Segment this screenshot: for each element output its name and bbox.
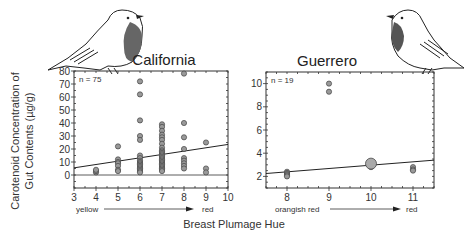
x-tick-label: 7 — [159, 192, 165, 203]
data-point — [203, 170, 208, 175]
y-axis-label: Carotenoid Concentration of Gut Contents… — [9, 71, 35, 210]
y-tick-label: 30 — [59, 131, 71, 142]
data-point — [137, 137, 142, 142]
y-tick-label: 8 — [256, 101, 262, 112]
scale-label-right: red — [202, 205, 214, 214]
scale-label-right: red — [406, 205, 418, 214]
y-tick-label: 70 — [59, 79, 71, 90]
y-tick-label: 6 — [256, 125, 262, 136]
data-point — [203, 140, 208, 145]
x-tick-label: 10 — [365, 192, 377, 203]
x-tick-label: 5 — [115, 192, 121, 203]
y-tick-label: 40 — [59, 118, 71, 129]
data-point — [159, 169, 164, 174]
bird-guerrero-icon — [386, 10, 464, 74]
bird-california-icon — [48, 10, 144, 74]
data-point — [181, 71, 186, 76]
data-point — [93, 167, 98, 172]
data-point — [137, 92, 142, 97]
data-point — [137, 170, 142, 175]
data-point — [137, 79, 142, 84]
scale-label-left: orangish red — [275, 205, 319, 214]
regression-line — [266, 160, 434, 173]
data-point — [181, 135, 186, 140]
data-point — [181, 146, 186, 151]
sample-size: n = 19 — [271, 76, 294, 85]
scale-label-left: yellow — [76, 205, 98, 214]
data-point-large — [366, 158, 377, 169]
figure: Carotenoid Concentration of Gut Contents… — [0, 0, 469, 238]
x-tick-label: 11 — [408, 192, 419, 203]
x-axis-label: Breast Plumage Hue — [183, 218, 285, 230]
x-tick-label: 3 — [71, 192, 77, 203]
chart-california: 01020304050607080345678910n = 75Californ… — [59, 51, 234, 214]
data-point — [410, 168, 415, 173]
y-tick-label: 4 — [256, 148, 262, 159]
data-point — [181, 120, 186, 125]
y-tick-label: 50 — [59, 105, 71, 116]
svg-text:Gut Contents (µg/g): Gut Contents (µg/g) — [23, 93, 35, 190]
y-tick-label: 20 — [59, 144, 71, 155]
y-tick-label: 10 — [59, 157, 71, 168]
panel-title: California — [132, 51, 196, 68]
x-tick-label: 10 — [222, 192, 234, 203]
data-point — [284, 174, 289, 179]
data-point — [326, 81, 331, 86]
data-point — [137, 118, 142, 123]
y-tick-label: 80 — [59, 66, 71, 77]
data-point — [326, 89, 331, 94]
x-tick-label: 9 — [326, 192, 332, 203]
arrow-right-icon — [393, 207, 401, 212]
svg-text:Carotenoid Concentration of: Carotenoid Concentration of — [9, 71, 21, 210]
x-tick-label: 6 — [137, 192, 143, 203]
chart-guerrero: 246810891011n = 19Guerreroorangish redre… — [251, 52, 434, 214]
x-tick-label: 8 — [181, 192, 187, 203]
sample-size: n = 75 — [79, 75, 102, 84]
x-tick-label: 9 — [203, 192, 209, 203]
data-point — [181, 166, 186, 171]
x-tick-label: 8 — [284, 192, 290, 203]
y-tick-label: 2 — [256, 171, 262, 182]
arrow-right-icon — [186, 207, 194, 212]
data-point — [115, 144, 120, 149]
y-tick-label: 60 — [59, 92, 71, 103]
regression-line — [74, 144, 228, 167]
y-tick-label: 10 — [251, 78, 263, 89]
data-point — [115, 169, 120, 174]
y-tick-label: 0 — [64, 170, 70, 181]
x-tick-label: 4 — [93, 192, 99, 203]
panel-title: Guerrero — [297, 52, 357, 69]
